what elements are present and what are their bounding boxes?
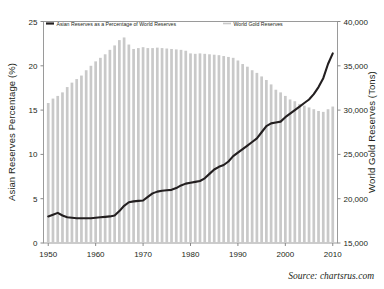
- bar: [208, 54, 211, 243]
- bar: [99, 58, 102, 243]
- bar: [199, 53, 202, 243]
- bar: [270, 84, 273, 243]
- bar: [90, 66, 93, 243]
- bar: [227, 57, 230, 243]
- bar: [137, 48, 140, 243]
- bar: [213, 55, 216, 243]
- left-axis-tick-label: 15: [29, 106, 38, 115]
- right-axis-title: World Gold Reserves (Tons): [366, 71, 377, 193]
- chart-legend: Asian Reserves as a Percentage of World …: [46, 21, 283, 27]
- bar: [66, 87, 69, 243]
- bar: [161, 48, 164, 243]
- x-axis-tick-label: 1980: [182, 250, 200, 259]
- bar: [251, 70, 254, 243]
- x-axis-tick-label: 1950: [39, 250, 57, 259]
- bar: [142, 47, 145, 243]
- bar: [156, 48, 159, 243]
- bar: [222, 56, 225, 243]
- bar: [203, 54, 206, 243]
- bar: [322, 112, 325, 243]
- bar: [279, 92, 282, 243]
- left-axis-title: Asian Reserves Percentage (%): [6, 63, 17, 201]
- bar: [146, 48, 149, 243]
- bar: [56, 96, 59, 243]
- x-axis-tick-label: 1970: [134, 250, 152, 259]
- bar: [218, 55, 221, 243]
- bar: [132, 49, 135, 243]
- bar: [331, 107, 334, 243]
- bar: [189, 53, 192, 243]
- bar: [275, 90, 278, 243]
- bar: [246, 67, 249, 243]
- bar: [298, 104, 301, 243]
- bar: [175, 49, 178, 243]
- legend-label-world-gold-reserves: World Gold Reserves: [234, 21, 284, 27]
- bar: [47, 103, 50, 243]
- bar: [180, 50, 183, 243]
- bar: [52, 99, 55, 243]
- legend-label-asian-reserves: Asian Reserves as a Percentage of World …: [57, 21, 177, 27]
- right-axis-tick-label: 30,000: [344, 106, 369, 115]
- right-axis-tick-label: 25,000: [344, 150, 369, 159]
- bar: [128, 45, 131, 243]
- x-axis-tick-label: 2000: [276, 250, 294, 259]
- bar: [71, 83, 74, 243]
- bar: [308, 107, 311, 243]
- bar: [109, 50, 112, 243]
- bar: [151, 48, 154, 243]
- right-axis-tick-label: 15,000: [344, 239, 369, 248]
- left-axis-tick-label: 5: [33, 195, 38, 204]
- bar: [170, 49, 173, 243]
- x-axis-tick-label: 2010: [324, 250, 342, 259]
- right-axis-tick-label: 40,000: [344, 18, 369, 27]
- right-axis-tick-label: 20,000: [344, 195, 369, 204]
- bar: [312, 109, 315, 243]
- bar: [85, 70, 88, 243]
- bar: [256, 73, 259, 243]
- bar: [303, 106, 306, 243]
- bar: [165, 49, 168, 243]
- x-axis-tick-label: 1990: [229, 250, 247, 259]
- left-axis-tick-label: 0: [33, 239, 38, 248]
- left-axis-tick-label: 10: [29, 150, 38, 159]
- bar: [293, 101, 296, 243]
- bar: [241, 64, 244, 243]
- bar: [61, 92, 64, 243]
- bar: [327, 109, 330, 243]
- bar: [265, 80, 268, 243]
- right-axis-tick-label: 35,000: [344, 62, 369, 71]
- bar: [232, 58, 235, 243]
- bar: [194, 54, 197, 243]
- source-attribution: Source: chartsrus.com: [288, 271, 374, 281]
- bar: [260, 76, 263, 243]
- bar: [123, 37, 126, 243]
- bar: [289, 99, 292, 243]
- x-axis-tick-label: 1960: [87, 250, 105, 259]
- left-axis-tick-label: 20: [29, 62, 38, 71]
- bar: [94, 61, 97, 243]
- bar: [317, 111, 320, 243]
- left-axis-tick-label: 25: [29, 18, 38, 27]
- dual-axis-chart: 0510152025 15,00020,00025,00030,00035,00…: [0, 0, 384, 289]
- bar: [184, 51, 187, 243]
- chart-container: 0510152025 15,00020,00025,00030,00035,00…: [0, 0, 384, 289]
- bar: [104, 54, 107, 243]
